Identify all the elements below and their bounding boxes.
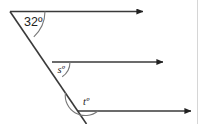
bottom-angle-label: tº bbox=[83, 96, 90, 107]
middle-angle-label: sº bbox=[58, 64, 66, 75]
geometry-diagram-svg: 32º sº tº bbox=[0, 0, 202, 124]
geometry-figure: 32º sº tº bbox=[0, 0, 202, 124]
top-angle-label: 32º bbox=[24, 15, 43, 29]
